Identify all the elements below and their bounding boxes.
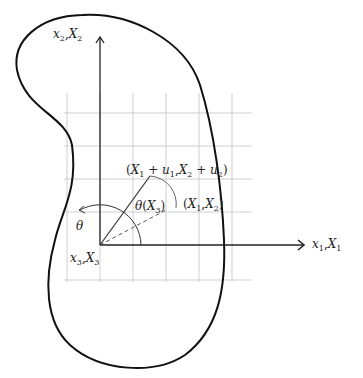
body-outline xyxy=(16,15,224,368)
rotation-arc xyxy=(80,205,141,245)
diagram-canvas xyxy=(0,0,363,378)
torsion-diagram: x2,X2 x1,X1 x3,X3 θ θ(X3) (X1 + u1,X2 + … xyxy=(0,0,363,378)
twist-angle-label: θ(X3) xyxy=(135,200,165,215)
original-point-label: (X1,X2) xyxy=(183,198,223,213)
axes xyxy=(96,37,304,250)
vertical-axis-label: x2,X2 xyxy=(53,28,82,43)
horizontal-axis-label: x1,X1 xyxy=(312,238,341,253)
origin-axis-label: x3,X3 xyxy=(70,252,99,267)
deformed-point-label: (X1 + u1,X2 + u2) xyxy=(126,164,228,179)
rotation-angle-label: θ xyxy=(76,220,83,232)
